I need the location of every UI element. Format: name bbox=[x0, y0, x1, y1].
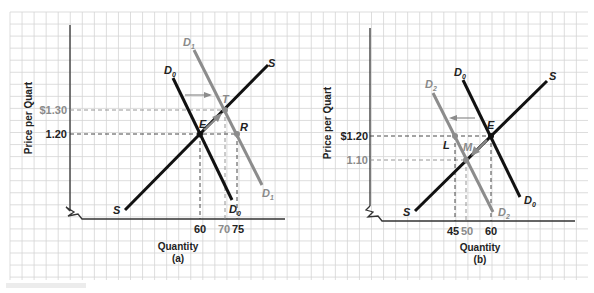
y-axis-label: Price per Quart bbox=[23, 81, 34, 154]
panel-b: E L M S S D0 D0 D2 D2 $1.20 1.10 45 50 6… bbox=[322, 28, 575, 265]
point-t bbox=[222, 107, 228, 113]
label-d1-top: D1 bbox=[183, 36, 195, 50]
label-d0-top: D0 bbox=[454, 66, 466, 80]
label-d0-top: D0 bbox=[164, 64, 176, 78]
label-d2-bottom: D2 bbox=[498, 206, 510, 220]
label-r: R bbox=[240, 121, 248, 133]
qty-tick-45: 45 bbox=[447, 225, 459, 237]
label-m: M bbox=[463, 141, 473, 153]
price-tick-1-30: $1.30 bbox=[39, 104, 67, 116]
qty-tick-75: 75 bbox=[232, 223, 244, 235]
price-tick-1-20: 1.20 bbox=[46, 128, 67, 140]
supply-demand-diagram: E T R S S D0 D0 D1 D1 $1.30 1.20 60 70 7… bbox=[0, 0, 594, 293]
label-s-bottom: S bbox=[403, 206, 411, 218]
label-d1-bottom: D1 bbox=[262, 187, 274, 201]
supply-curve-s bbox=[125, 65, 268, 210]
qty-tick-60: 60 bbox=[194, 223, 206, 235]
point-e bbox=[197, 131, 203, 137]
qty-tick-70: 70 bbox=[218, 223, 230, 235]
graph-paper-grid bbox=[10, 12, 588, 280]
point-e bbox=[488, 133, 494, 139]
panel-caption: (b) bbox=[474, 254, 487, 265]
label-s-top: S bbox=[268, 57, 276, 69]
label-s-top: S bbox=[549, 70, 557, 82]
qty-tick-50: 50 bbox=[461, 225, 473, 237]
x-axis-label: Quantity bbox=[158, 241, 199, 252]
y-axis-label: Price per Quart bbox=[322, 86, 333, 159]
bottom-strip bbox=[6, 283, 86, 288]
qty-tick-60: 60 bbox=[485, 225, 497, 237]
label-e: E bbox=[199, 118, 207, 130]
panel-caption: (a) bbox=[172, 253, 184, 264]
x-axis-with-break bbox=[366, 206, 575, 221]
price-tick-1-10: 1.10 bbox=[347, 154, 368, 166]
arrowhead-icon bbox=[204, 92, 212, 98]
label-s-bottom: S bbox=[113, 204, 121, 216]
label-d0-bottom: D0 bbox=[524, 194, 536, 208]
label-e: E bbox=[487, 119, 495, 131]
point-m bbox=[463, 157, 469, 163]
label-d2-top: D2 bbox=[425, 78, 437, 92]
point-l bbox=[452, 133, 458, 139]
price-tick-1-20: $1.20 bbox=[340, 130, 368, 142]
x-axis-label: Quantity bbox=[460, 242, 501, 253]
label-l: L bbox=[443, 139, 450, 151]
